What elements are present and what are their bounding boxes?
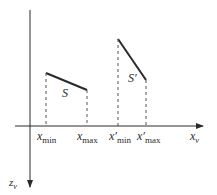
axis-label-zv: zv	[8, 176, 17, 191]
diagram-canvas: S S′ xmin xmax x′min x′max xv zv	[0, 0, 217, 195]
xmax-label: xmax	[76, 129, 98, 145]
xmax-prime-label: x′max	[136, 129, 161, 145]
axis-label-xv: xv	[189, 129, 199, 145]
xmin-label: xmin	[36, 129, 57, 145]
segment-s-label: S	[62, 86, 68, 100]
segment-s-prime-label: S′	[128, 71, 137, 85]
xmin-prime-label: x′min	[108, 129, 131, 145]
